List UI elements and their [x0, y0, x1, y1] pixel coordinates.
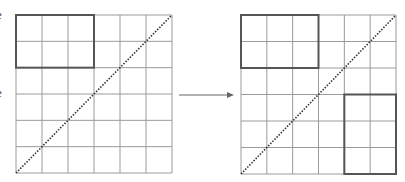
figure: e e	[0, 0, 405, 182]
right-grid	[241, 15, 396, 174]
arrow-head-icon	[227, 92, 234, 98]
transform-arrow	[179, 92, 234, 98]
left-grid	[16, 15, 172, 173]
grid-transformation-diagram	[0, 0, 405, 182]
